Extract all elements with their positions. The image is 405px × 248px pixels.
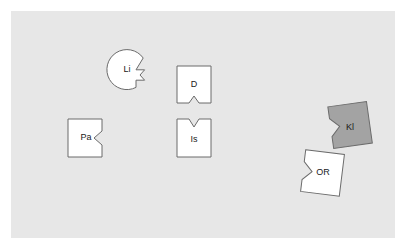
d-label: D xyxy=(191,79,198,89)
pa-label: Pa xyxy=(80,132,91,142)
li-label: Li xyxy=(123,64,130,74)
or-label: OR xyxy=(316,167,330,177)
kl-label: Kl xyxy=(346,122,354,132)
puzzle-piece-li[interactable]: Li xyxy=(107,50,145,90)
puzzle-pieces-layer: Li Pa D Is Kl OR xyxy=(0,0,405,248)
diagram-canvas: Li Pa D Is Kl OR xyxy=(0,0,405,248)
puzzle-piece-is[interactable]: Is xyxy=(177,119,211,157)
puzzle-piece-pa[interactable]: Pa xyxy=(68,119,102,157)
puzzle-piece-kl[interactable]: Kl xyxy=(328,101,372,148)
is-label: Is xyxy=(190,134,198,144)
puzzle-piece-or[interactable]: OR xyxy=(301,150,345,196)
puzzle-piece-d[interactable]: D xyxy=(177,66,211,103)
